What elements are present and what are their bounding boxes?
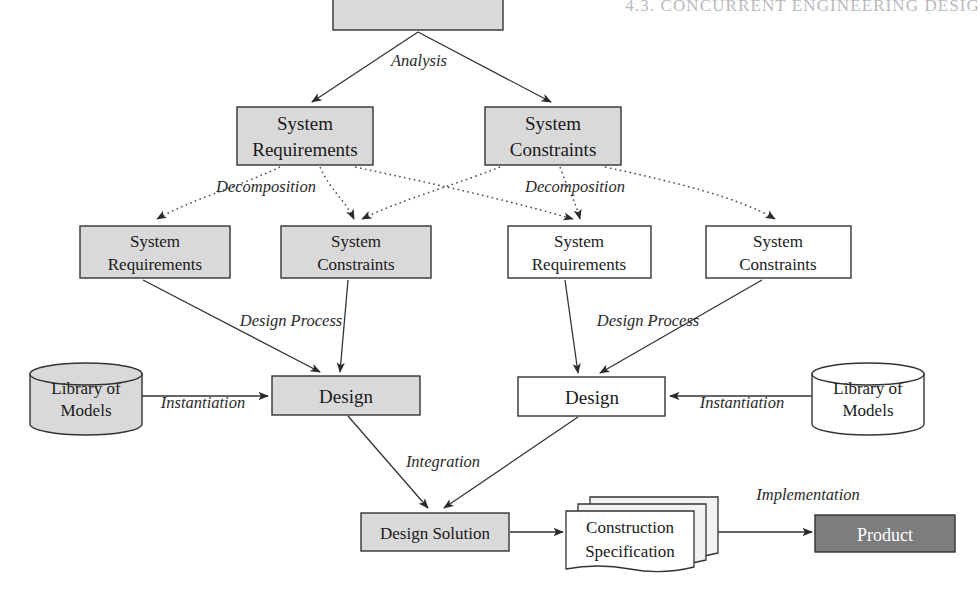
arrow-decomposition-req-to-con-left	[320, 167, 354, 219]
edge-label-design-process-left: Design Process	[239, 311, 343, 330]
construction-specification-document-stack: Construction Specification	[566, 497, 718, 572]
design-box-left: Design	[272, 376, 420, 415]
cylinder-label-line2: Models	[61, 401, 112, 420]
need-box	[333, 0, 503, 30]
diagram-page: 4.3. CONCURRENT ENGINEERING DESIG	[0, 0, 980, 598]
cylinder-label-line1: Library of	[833, 379, 903, 398]
arrow-decomposition-con-to-con-right	[605, 167, 775, 219]
spec-label-line2: Specification	[585, 542, 675, 561]
box-label-line2: Requirements	[252, 139, 358, 160]
concurrent-engineering-design-diagram: System Requirements System Constraints S…	[0, 0, 980, 598]
box-label-line1: System	[525, 113, 581, 134]
design-solution-label: Design Solution	[380, 524, 491, 543]
system-constraints-box-level2-left: System Constraints	[281, 226, 431, 278]
edge-label-instantiation-left: Instantiation	[160, 393, 245, 412]
box-label-line1: System	[277, 113, 333, 134]
design-box-label: Design	[565, 387, 619, 408]
cylinder-label-line1: Library of	[51, 379, 121, 398]
box-label-line1: System	[331, 232, 381, 251]
edge-label-integration: Integration	[405, 452, 480, 471]
arrow-decomposition-con-to-con-left	[362, 167, 500, 219]
edge-label-decomposition-right: Decomposition	[524, 177, 625, 196]
design-box-right: Design	[518, 377, 665, 416]
box-label-line2: Constraints	[739, 255, 816, 274]
system-constraints-box-level1: System Constraints	[485, 107, 621, 165]
spec-label-line1: Construction	[586, 518, 674, 537]
box-label-line2: Requirements	[532, 255, 626, 274]
system-constraints-box-level2-right: System Constraints	[706, 226, 851, 278]
product-box: Product	[815, 515, 955, 552]
system-requirements-box-level2-left: System Requirements	[80, 226, 230, 278]
arrow-design-process-right-a	[565, 280, 578, 373]
box-label-line1: System	[554, 232, 604, 251]
box-label-line2: Constraints	[317, 255, 394, 274]
design-box-label: Design	[319, 386, 373, 407]
edge-label-decomposition-left: Decomposition	[215, 177, 316, 196]
box-label-line1: System	[753, 232, 803, 251]
system-requirements-box-level2-right: System Requirements	[508, 226, 651, 278]
edge-label-design-process-right: Design Process	[596, 311, 700, 330]
product-label: Product	[857, 525, 913, 545]
box-label-line1: System	[130, 232, 180, 251]
library-of-models-cylinder-left: Library of Models	[30, 363, 142, 435]
system-requirements-box-level1: System Requirements	[237, 107, 373, 165]
box-label-line2: Constraints	[510, 139, 597, 160]
design-solution-box: Design Solution	[361, 513, 509, 551]
edge-label-instantiation-right: Instantiation	[699, 393, 784, 412]
edge-label-analysis: Analysis	[390, 51, 447, 70]
cylinder-label-line2: Models	[843, 401, 894, 420]
edge-label-implementation: Implementation	[755, 485, 860, 504]
box-label-line2: Requirements	[108, 255, 202, 274]
library-of-models-cylinder-right: Library of Models	[812, 363, 924, 435]
